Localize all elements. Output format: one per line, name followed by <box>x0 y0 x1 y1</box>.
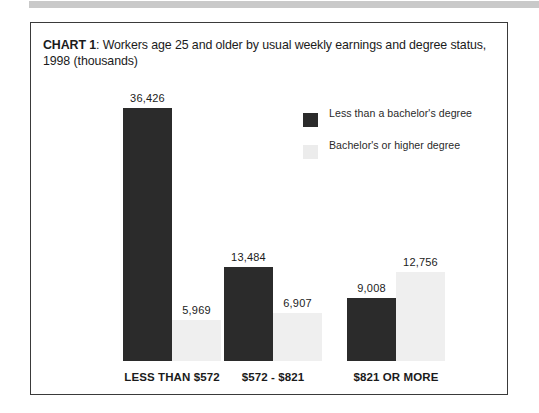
bar-0-1 <box>172 320 221 361</box>
bar-2-1 <box>396 272 445 361</box>
bar-value-label-0-0: 36,426 <box>130 92 165 104</box>
bar-value-label-1-1: 6,907 <box>283 297 312 309</box>
bar-1-0 <box>224 267 273 361</box>
category-label-0: LESS THAN $572 <box>124 371 219 383</box>
plot-area: 36,4265,969LESS THAN $57213,4846,907$572… <box>31 23 509 396</box>
category-label-1: $572 - $821 <box>242 371 305 383</box>
bar-value-label-0-1: 5,969 <box>182 304 211 316</box>
top-gray-strip <box>29 1 539 8</box>
bar-value-label-2-0: 9,008 <box>357 282 386 294</box>
bar-1-1 <box>273 313 322 361</box>
category-label-2: $821 OR MORE <box>354 371 439 383</box>
bar-value-label-1-0: 13,484 <box>231 251 266 263</box>
bar-0-0 <box>123 108 172 361</box>
bar-2-0 <box>347 298 396 361</box>
chart-frame: CHART 1: Workers age 25 and older by usu… <box>30 22 508 395</box>
bar-value-label-2-1: 12,756 <box>403 256 438 268</box>
